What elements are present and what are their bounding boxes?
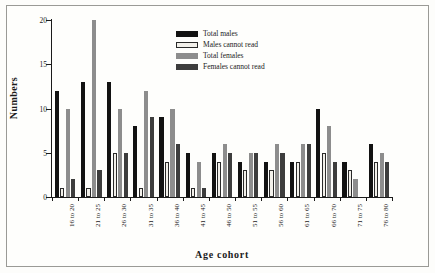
legend-label: Total females: [203, 52, 244, 60]
bar: [191, 188, 195, 197]
x-tick-mark: [392, 197, 393, 201]
bar: [170, 109, 174, 198]
bar: [165, 162, 169, 197]
bar: [217, 162, 221, 197]
bar: [223, 144, 227, 197]
bar: [353, 179, 357, 197]
legend-swatch: [176, 31, 198, 37]
x-tick-label: 66 to 70: [330, 204, 338, 227]
legend-label: Females cannot read: [203, 63, 265, 71]
x-tick-label: 21 to 25: [94, 204, 102, 227]
x-tick-label: 16 to 20: [68, 204, 76, 227]
bar: [133, 126, 137, 197]
bar: [280, 153, 284, 197]
bar: [296, 162, 300, 197]
bar: [316, 109, 320, 198]
bar: [254, 153, 258, 197]
bar: [66, 109, 70, 198]
bar: [301, 144, 305, 197]
bar: [176, 144, 180, 197]
legend-item: Total females: [176, 50, 265, 61]
bar: [144, 91, 148, 197]
x-tick-mark: [209, 197, 210, 201]
x-tick-mark: [183, 197, 184, 201]
x-tick-mark: [157, 197, 158, 201]
legend: Total malesMales cannot readTotal female…: [176, 28, 265, 72]
x-tick-label: 51 to 55: [251, 204, 259, 227]
bar: [348, 170, 352, 197]
bar: [212, 153, 216, 197]
x-tick-label: 41 to 45: [199, 204, 207, 227]
bar: [202, 188, 206, 197]
x-tick-label: 36 to 40: [173, 204, 181, 227]
x-tick-label: 31 to 35: [147, 204, 155, 227]
bar: [385, 162, 389, 197]
bar: [327, 126, 331, 197]
legend-label: Males cannot read: [203, 41, 258, 49]
x-tick-label: 71 to 75: [356, 204, 364, 227]
bar: [86, 188, 90, 197]
x-tick-mark: [261, 197, 262, 201]
legend-swatch: [176, 64, 198, 70]
bar: [60, 188, 64, 197]
y-tick-label: 20: [40, 16, 48, 25]
bar: [228, 153, 232, 197]
legend-label: Total males: [203, 30, 238, 38]
x-tick-label: 46 to 50: [225, 204, 233, 227]
bar: [118, 109, 122, 198]
bar: [380, 153, 384, 197]
legend-item: Total males: [176, 28, 265, 39]
bar: [124, 153, 128, 197]
x-tick-mark: [366, 197, 367, 201]
bar: [342, 162, 346, 197]
bar: [249, 153, 253, 197]
bar: [107, 82, 111, 197]
bar: [97, 170, 101, 197]
y-tick-label: 10: [40, 104, 48, 113]
legend-swatch: [176, 42, 198, 48]
y-tick-label: 15: [40, 60, 48, 69]
bar: [55, 91, 59, 197]
bar: [307, 144, 311, 197]
bar: [243, 170, 247, 197]
x-tick-label: 26 to 30: [120, 204, 128, 227]
bar: [92, 20, 96, 197]
bar: [374, 162, 378, 197]
bar: [139, 188, 143, 197]
figure: 05101520 16 to 2021 to 2526 to 3031 to 3…: [0, 0, 435, 273]
y-tick-label: 0: [43, 193, 47, 202]
y-axis-title: Numbers: [8, 77, 19, 119]
x-tick-mark: [235, 197, 236, 201]
bar: [186, 153, 190, 197]
legend-item: Females cannot read: [176, 61, 265, 72]
x-tick-label: 56 to 60: [277, 204, 285, 227]
x-tick-mark: [130, 197, 131, 201]
bar: [197, 162, 201, 197]
x-tick-mark: [314, 197, 315, 201]
x-tick-mark: [104, 197, 105, 201]
bar: [113, 153, 117, 197]
y-tick-label: 5: [43, 148, 47, 157]
bar: [150, 117, 154, 197]
legend-swatch: [176, 53, 198, 59]
bar: [269, 170, 273, 197]
x-tick-mark: [340, 197, 341, 201]
bar: [275, 144, 279, 197]
bar: [71, 179, 75, 197]
bar: [290, 162, 294, 197]
x-tick-label: 76 to 80: [382, 204, 390, 227]
x-tick-mark: [287, 197, 288, 201]
bar: [238, 162, 242, 197]
x-tick-mark: [52, 197, 53, 201]
x-tick-mark: [78, 197, 79, 201]
legend-item: Males cannot read: [176, 39, 265, 50]
bar: [333, 162, 337, 197]
x-axis-line: [51, 197, 393, 198]
bar: [81, 82, 85, 197]
bar: [159, 117, 163, 197]
bar: [322, 153, 326, 197]
bar: [369, 144, 373, 197]
bar: [264, 162, 268, 197]
x-axis-title: Age cohort: [52, 249, 392, 260]
x-tick-label: 61 to 65: [303, 204, 311, 227]
